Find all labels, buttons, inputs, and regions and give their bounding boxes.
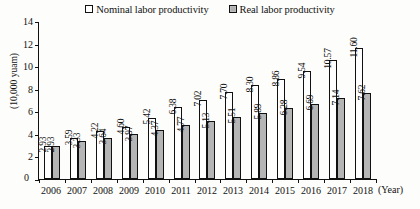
bar-real: 5.51 xyxy=(233,117,241,179)
bar-real: 2.93 xyxy=(52,146,60,179)
bar-value-label: 11.60 xyxy=(350,37,360,57)
bar-group: 11.607.62 xyxy=(350,22,376,179)
bar-real: 3.33 xyxy=(78,141,86,179)
bar-value-label: 4.77 xyxy=(176,116,186,132)
x-axis-tick-label: 2015 xyxy=(272,185,298,196)
y-axis-tick-label: 8 xyxy=(28,85,33,95)
y-axis-tick-label: 10 xyxy=(23,62,33,72)
bar-group: 3.593.33 xyxy=(65,22,91,179)
bar-group: 9.546.69 xyxy=(298,22,324,179)
bar-real: 5.89 xyxy=(259,113,267,179)
x-axis-tick-label: 2012 xyxy=(194,185,220,196)
bar-nominal: 8.30 xyxy=(251,85,259,179)
bar-group: 2.932.93 xyxy=(39,22,65,179)
bar-group: 4.223.64 xyxy=(91,22,117,179)
bar-value-label: 10.57 xyxy=(324,49,334,69)
bar-real: 4.77 xyxy=(182,125,190,179)
bar-value-label: 8.86 xyxy=(272,70,282,86)
bar-real: 3.97 xyxy=(130,134,138,179)
bar-value-label: 9.54 xyxy=(298,62,308,78)
gray-square-icon xyxy=(229,5,237,13)
y-axis-tick-label: 6 xyxy=(28,107,33,117)
bar-value-label: 7.14 xyxy=(332,90,342,106)
bar-group: 10.577.14 xyxy=(324,22,350,179)
bar-real: 3.64 xyxy=(104,138,112,179)
bar-value-label: 8.30 xyxy=(246,76,256,92)
bar-value-label: 7.02 xyxy=(194,91,204,107)
legend-item-nominal: Nominal labor productivity xyxy=(85,4,208,15)
bar-value-label: 6.69 xyxy=(306,95,316,111)
bar-group: 4.603.97 xyxy=(117,22,143,179)
bar-value-label: 5.51 xyxy=(228,108,238,124)
x-axis-tick-label: 2013 xyxy=(220,185,246,196)
bar-nominal: 11.60 xyxy=(355,48,363,179)
x-axis-tick xyxy=(376,179,377,183)
y-axis-tick-label: 12 xyxy=(23,40,33,50)
legend-label-real: Real labor productivity xyxy=(240,4,335,15)
bar-group: 8.866.28 xyxy=(272,22,298,179)
x-axis-tick-label: 2011 xyxy=(168,185,194,196)
bar-nominal: 9.54 xyxy=(303,71,311,179)
bar-value-label: 4.37 xyxy=(150,121,160,137)
x-axis-tick-label: 2009 xyxy=(116,185,142,196)
legend-item-real: Real labor productivity xyxy=(229,4,335,15)
bar-real: 6.69 xyxy=(311,104,319,180)
bar-nominal: 8.86 xyxy=(277,79,285,179)
white-square-icon xyxy=(85,5,93,13)
x-axis-labels: 2006200720082009201020112012201320142015… xyxy=(38,183,376,197)
labor-productivity-bar-chart: Nominal labor productivity Real labor pr… xyxy=(0,0,420,209)
x-axis-tick-label: 2006 xyxy=(38,185,64,196)
bar-value-label: 5.13 xyxy=(202,112,212,128)
bar-real: 6.28 xyxy=(285,108,293,179)
plot-area: 2468101214 2.932.933.593.334.223.644.603… xyxy=(38,22,376,180)
x-axis-tick-label: 2008 xyxy=(90,185,116,196)
bar-value-label: 7.70 xyxy=(220,83,230,99)
bar-nominal: 10.57 xyxy=(329,60,337,179)
bar-groups: 2.932.933.593.334.223.644.603.975.424.37… xyxy=(39,22,376,179)
x-axis-unit-label: (Year) xyxy=(378,183,403,197)
x-axis-tick-label: 2017 xyxy=(324,185,350,196)
y-axis-tick-label: 14 xyxy=(23,17,33,27)
x-axis-tick-label: 2016 xyxy=(298,185,324,196)
bar-real: 4.37 xyxy=(156,130,164,179)
bar-group: 7.025.13 xyxy=(195,22,221,179)
bar-nominal: 7.70 xyxy=(225,92,233,179)
y-axis-title: (10,000 yuam) xyxy=(9,21,19,141)
bar-value-label: 2.93 xyxy=(46,137,56,153)
bar-value-label: 3.64 xyxy=(98,129,108,145)
x-axis-tick-label: 2007 xyxy=(64,185,90,196)
x-axis-tick-label: 2010 xyxy=(142,185,168,196)
bar-value-label: 6.28 xyxy=(280,99,290,115)
bar-value-label: 3.33 xyxy=(72,133,82,149)
bar-real: 5.13 xyxy=(207,121,215,179)
y-axis-tick-label: 4 xyxy=(28,130,33,140)
y-axis-tick-label-zero: 0 xyxy=(24,173,29,183)
bar-group: 8.305.89 xyxy=(246,22,272,179)
bar-group: 6.384.77 xyxy=(169,22,195,179)
y-axis-tick-label: 2 xyxy=(28,152,33,162)
bar-value-label: 6.38 xyxy=(168,98,178,114)
bar-value-label: 3.97 xyxy=(124,125,134,141)
bar-group: 5.424.37 xyxy=(143,22,169,179)
bar-group: 7.705.51 xyxy=(220,22,246,179)
x-axis-tick-label: 2018 xyxy=(350,185,376,196)
x-axis-tick-label: 2014 xyxy=(246,185,272,196)
bar-value-label: 5.89 xyxy=(254,104,264,120)
legend-label-nominal: Nominal labor productivity xyxy=(96,4,208,15)
bar-real: 7.14 xyxy=(337,98,345,179)
bar-real: 7.62 xyxy=(363,93,371,179)
chart-legend: Nominal labor productivity Real labor pr… xyxy=(0,0,420,18)
bar-value-label: 7.62 xyxy=(358,84,368,100)
